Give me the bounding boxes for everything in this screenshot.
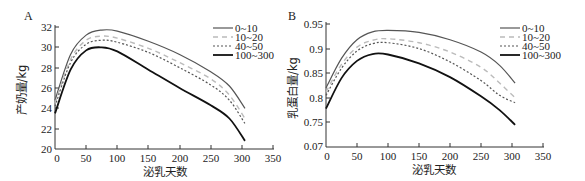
- figure: A 32 30 28 26 24 22 20: [0, 0, 585, 181]
- x-tick-label: 100: [380, 150, 397, 162]
- y-tick-label: 0.95: [304, 18, 324, 30]
- series-line-0-10: [55, 30, 245, 109]
- x-axis-title-a: 泌乳天数: [143, 165, 188, 179]
- legend-item: 100~300: [235, 49, 274, 61]
- series-line-10-20: [326, 39, 515, 98]
- chart-b: B 0.95 0.9 0.85 0.8 0.75 0.07 0 50 10: [286, 9, 561, 177]
- y-tick-label: 24: [41, 102, 53, 114]
- x-tick-label: 250: [473, 150, 490, 162]
- plot-area-a: [55, 30, 245, 141]
- y-axis-title-a: 产奶量/kg: [15, 65, 29, 116]
- x-tick-label: 150: [140, 152, 157, 164]
- x-tick-label: 0: [324, 150, 330, 162]
- series-line-10-20: [55, 36, 245, 118]
- y-ticks-a: 32 30 28 26 24 22 20: [41, 21, 59, 155]
- series-line-100-300: [326, 53, 515, 125]
- x-axis-title-b: 泌乳天数: [412, 163, 457, 177]
- legend-a: 0~10 10~20 40~50 100~300: [213, 22, 274, 61]
- x-ticks-a: 0 50 100 150 200 250 300 350: [54, 145, 282, 164]
- y-tick-label: 0.8: [309, 92, 323, 104]
- y-tick-label: 28: [41, 62, 53, 74]
- x-tick-label: 0: [54, 152, 60, 164]
- y-tick-label: 0.07: [304, 140, 324, 152]
- y-tick-label: 0.85: [304, 67, 324, 79]
- chart-a: A 32 30 28 26 24 22 20: [15, 9, 282, 179]
- y-tick-label: 26: [41, 82, 53, 94]
- panel-label-b: B: [288, 9, 296, 23]
- y-tick-label: 32: [41, 21, 52, 33]
- x-tick-label: 100: [109, 152, 126, 164]
- series-line-100-300: [55, 47, 245, 141]
- x-tick-label: 350: [535, 150, 552, 162]
- legend-item: 100~300: [522, 49, 561, 61]
- x-tick-label: 50: [352, 150, 364, 162]
- x-tick-label: 300: [504, 150, 521, 162]
- x-tick-label: 250: [203, 152, 220, 164]
- x-ticks-b: 0 50 100 150 200 250 300 350: [324, 143, 552, 162]
- x-tick-label: 350: [265, 152, 282, 164]
- series-line-40-50: [326, 42, 515, 102]
- x-tick-label: 150: [411, 150, 428, 162]
- y-tick-label: 0.9: [309, 43, 323, 55]
- panel-label-a: A: [24, 9, 33, 23]
- y-tick-label: 0.75: [304, 116, 324, 128]
- y-tick-label: 22: [41, 123, 52, 135]
- plot-area-b: [326, 30, 515, 124]
- y-tick-label: 20: [41, 143, 53, 155]
- x-tick-label: 200: [442, 150, 459, 162]
- y-tick-label: 30: [41, 41, 53, 53]
- legend-b: 0~10 10~20 40~50 100~300: [500, 22, 561, 61]
- x-tick-label: 50: [81, 152, 93, 164]
- x-tick-label: 300: [234, 152, 251, 164]
- x-tick-label: 200: [172, 152, 189, 164]
- y-axis-title-b: 乳蛋白量/kg: [286, 57, 300, 119]
- series-line-0-10: [326, 30, 515, 88]
